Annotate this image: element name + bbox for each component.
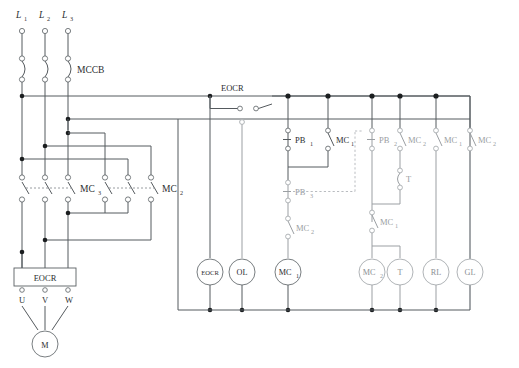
motor-label: M [41,341,49,350]
contact-pb2-subscript: 2 [394,140,397,147]
supply-line-l1 [19,28,29,268]
supply-subscript-l3: 3 [70,15,73,22]
load-mc1-coil-subscript: 1 [296,272,299,279]
breaker-label: MCCB [77,65,104,75]
load-rl-lamp-label: RL [431,268,441,277]
contact-pb3-subscript: 3 [310,192,313,199]
control-rails [210,93,470,258]
contact-pb2-label: PB [379,135,390,145]
contact-mc1-lamp: MC 1 [434,128,462,258]
contact-mc1-interlock: MC 1 [370,210,400,258]
load-mc2-coil-subscript: 2 [380,272,383,279]
motor-terminal-w: W [65,295,73,305]
load-eocr-coil-label: EOCR [201,269,219,276]
circuit-diagram: MC 3 MC 2 [0,0,519,368]
contactor-mc2-label: MC [162,184,177,194]
contact-mc2-lamp-label: MC [478,135,492,145]
contact-mc2-lamp: MC 2 [468,128,496,258]
contact-mc1-interlock-label: MC [380,217,394,227]
contact-pb2: PB 2 [367,128,397,222]
contact-mc1-interlock-subscript: 1 [395,222,398,229]
eocr-box: EOCR U V W [14,268,76,305]
load-mc2-coil-label: MC [363,268,376,277]
contact-mc2-interlock: MC 2 [286,216,314,258]
load-timer-coil-label: T [397,268,402,277]
contact-mc1-seal: MC 1 [288,128,354,167]
contact-mc2-seal: MC 2 [398,128,426,166]
load-ol-lamp: OL [229,259,255,312]
load-rl-lamp: RL [423,259,449,312]
supply-line-l3 [65,28,75,268]
load-mc1-coil-label: MC [279,268,292,277]
eocr-contact-label: EOCR [221,83,244,93]
circuit-canvas: MC 3 MC 2 [0,0,519,368]
contact-mc2-seal-subscript: 2 [423,140,426,147]
contact-mc1-seal-label: MC [336,135,350,145]
supply-label-l3: L [61,10,67,20]
eocr-feeders [20,202,151,268]
eocr-box-label: EOCR [34,273,57,283]
load-ol-lamp-label: OL [237,268,248,277]
load-timer-coil: T [387,259,413,312]
contact-pb1-subscript: 1 [310,140,313,147]
contact-mc2-seal-label: MC [408,135,422,145]
power-cross-wiring [20,133,151,215]
contact-timer: T [372,166,412,204]
load-gl-lamp-label: GL [465,268,476,277]
load-mc2-coil: MC 2 [359,259,385,312]
load-gl-lamp: GL [457,259,483,310]
supply-subscript-l1: 1 [24,15,27,22]
contact-pb1-label: PB [295,135,306,145]
contact-mc1-lamp-subscript: 1 [459,140,462,147]
supply-label-l1: L [15,10,21,20]
contact-mc1-lamp-label: MC [444,135,458,145]
supply-label-l2: L [38,10,44,20]
motor: M [22,306,68,357]
contact-mc1-seal-subscript: 1 [351,140,354,147]
contactor-mc3: MC 3 [26,184,101,196]
contact-pb3-label: PB [295,187,306,197]
contactor-mc3-label: MC [80,184,95,194]
load-mc1-coil: MC 1 [275,259,301,312]
supply-line-l2 [42,28,52,268]
contact-mc2-interlock-label: MC [296,223,310,233]
contactor-mc2-subscript: 2 [180,189,183,196]
motor-terminal-u: U [19,295,25,305]
contact-timer-label: T [406,174,412,184]
motor-terminal-v: V [42,295,49,305]
supply-subscript-l2: 2 [47,15,50,22]
contactor-mc3-subscript: 3 [98,189,101,196]
load-eocr-coil: EOCR [197,259,223,312]
contact-pb1: PB 1 [283,128,313,180]
contact-mc2-lamp-subscript: 2 [493,140,496,147]
contact-mc2-interlock-subscript: 2 [311,228,314,235]
contactor-mc2-power: MC 2 [102,175,183,202]
